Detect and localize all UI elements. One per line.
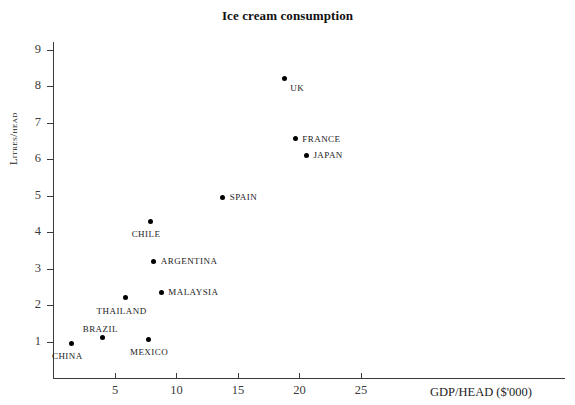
data-point-label: UK bbox=[290, 83, 304, 93]
data-point-label: JAPAN bbox=[313, 150, 342, 160]
x-axis-line bbox=[53, 378, 565, 379]
y-tick-label: 8 bbox=[35, 78, 41, 93]
y-axis-label: Litres/head bbox=[8, 112, 19, 165]
data-point-label: MALAYSIA bbox=[168, 287, 218, 297]
chart-title: Ice cream consumption bbox=[0, 8, 575, 24]
y-tick-label: 7 bbox=[35, 115, 41, 130]
data-point-label: SPAIN bbox=[230, 192, 257, 202]
y-tick-label: 1 bbox=[35, 334, 41, 349]
x-tick-label: 25 bbox=[355, 383, 368, 398]
y-tick-label: 2 bbox=[35, 297, 41, 312]
y-tick-label: 9 bbox=[35, 42, 41, 57]
data-point[interactable] bbox=[282, 76, 287, 81]
scatter-chart: Ice cream consumption Litres/head GDP/HE… bbox=[0, 0, 575, 405]
y-tick-label: 6 bbox=[35, 151, 41, 166]
x-tick-label: 10 bbox=[170, 383, 183, 398]
x-tick-label: 5 bbox=[112, 383, 118, 398]
y-tick-label: 5 bbox=[35, 188, 41, 203]
data-point-label: CHILE bbox=[132, 229, 161, 239]
data-point-label: CHINA bbox=[52, 351, 83, 361]
data-point[interactable] bbox=[69, 341, 74, 346]
data-point-label: ARGENTINA bbox=[161, 256, 218, 266]
data-point[interactable] bbox=[148, 219, 153, 224]
data-point-label: THAILAND bbox=[97, 306, 147, 316]
data-point[interactable] bbox=[304, 153, 309, 158]
data-point-label: MEXICO bbox=[130, 347, 168, 357]
x-axis-label: GDP/HEAD ($'000) bbox=[430, 385, 532, 400]
data-point-label: BRAZIL bbox=[83, 324, 118, 334]
y-tick-label: 3 bbox=[35, 261, 41, 276]
data-point[interactable] bbox=[159, 290, 164, 295]
plot-area bbox=[53, 43, 565, 378]
y-tick-label: 4 bbox=[35, 224, 41, 239]
x-tick-label: 20 bbox=[293, 383, 306, 398]
data-point-label: FRANCE bbox=[302, 134, 340, 144]
x-tick-label: 15 bbox=[232, 383, 245, 398]
